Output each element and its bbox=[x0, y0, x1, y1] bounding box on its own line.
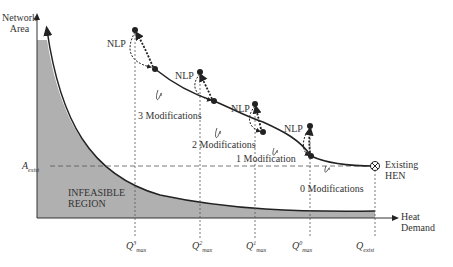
mod-label-1: 1 Modification bbox=[236, 153, 296, 164]
existing-label-line1: Existing bbox=[385, 159, 418, 170]
existing-label-line2: HEN bbox=[385, 170, 418, 181]
q-tick-2: Q2max bbox=[192, 238, 212, 256]
a-exist-sub: exist bbox=[28, 167, 39, 173]
y-axis-label-line2: Area bbox=[2, 23, 37, 34]
q-tick-0: Q0max bbox=[292, 238, 312, 256]
x-axis-label-line2: Demand bbox=[401, 222, 435, 233]
mod-label-3: 3 Modifications bbox=[138, 110, 202, 121]
q3-sub: max bbox=[136, 247, 146, 253]
q2-sub: max bbox=[202, 247, 212, 253]
q3-sup: 3 bbox=[133, 240, 136, 246]
nlp-label-3: NLP bbox=[231, 103, 250, 114]
q0-sup: 0 bbox=[299, 240, 302, 246]
region-label-line1: INFEASIBLE bbox=[68, 187, 125, 198]
q-tick-3: Q3max bbox=[126, 238, 146, 256]
existing-hen-marker bbox=[371, 162, 380, 171]
existing-hen-label: Existing HEN bbox=[385, 159, 418, 181]
q-tick-exist: Qexist bbox=[356, 240, 374, 256]
q0-sub: max bbox=[302, 247, 312, 253]
nlp-label-1: NLP bbox=[107, 38, 126, 49]
y-axis-label: Network Area bbox=[2, 12, 37, 34]
mod-label-2: 2 Modifications bbox=[192, 139, 256, 150]
infeasible-region-label: INFEASIBLE REGION bbox=[68, 187, 125, 209]
q1-sub: max bbox=[256, 247, 266, 253]
nlp-label-4: NLP bbox=[284, 123, 303, 134]
a-exist-label: Aexist bbox=[22, 160, 39, 176]
region-label-line2: REGION bbox=[68, 198, 125, 209]
nlp-label-2: NLP bbox=[175, 70, 194, 81]
q-tick-1: Q1max bbox=[246, 238, 266, 256]
x-axis-label-line1: Heat bbox=[401, 211, 435, 222]
y-axis-label-line1: Network bbox=[2, 12, 37, 23]
qexist-sub: exist bbox=[363, 247, 374, 253]
q1-sup: 1 bbox=[253, 240, 256, 246]
mod-label-0: 0 Modifications bbox=[300, 183, 364, 194]
q2-sup: 2 bbox=[199, 240, 202, 246]
x-axis-label: Heat Demand bbox=[401, 211, 435, 233]
diagram-canvas bbox=[0, 0, 453, 267]
